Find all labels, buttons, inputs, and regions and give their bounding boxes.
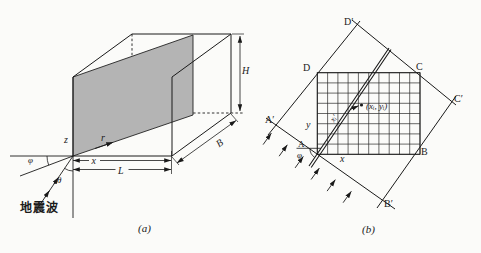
wavefront-arrow-5 xyxy=(327,180,335,191)
corner-d-prime-label: D′ xyxy=(344,16,353,27)
corner-d-label: D xyxy=(303,62,310,73)
theta-arc xyxy=(65,168,73,171)
grid-point-dot xyxy=(360,103,363,106)
panel-b: D′ D C C′ A′ A B B′ y x (xᵢ, yᵢ) xᵢ′ φ (… xyxy=(263,16,463,236)
corner-a-label: A xyxy=(298,139,305,149)
wavefront-arrow-2 xyxy=(279,145,287,156)
figure-container: z r x L B H φ θ 地震波 (a) xyxy=(0,0,481,253)
phi-label: φ xyxy=(28,155,33,165)
phi-arc xyxy=(47,156,49,165)
y-axis-label-b: y xyxy=(305,119,311,130)
dim-B-extensions xyxy=(172,114,238,165)
corner-b-label: B xyxy=(421,146,428,157)
corner-b-prime-label: B′ xyxy=(384,198,393,209)
dim-B-line xyxy=(177,121,236,164)
grid-point-label: (xᵢ, yᵢ) xyxy=(366,101,387,111)
seismic-wave-figure: z r x L B H φ θ 地震波 (a) xyxy=(0,0,481,253)
wavefront-arrow-4 xyxy=(311,168,319,179)
wavefront-arrow-1 xyxy=(263,133,271,144)
mesh-grid xyxy=(317,73,420,155)
z-axis-label: z xyxy=(63,134,68,145)
seismic-ray-arrow-2 xyxy=(45,191,50,198)
x-axis-label: x xyxy=(91,155,97,166)
panel-b-caption: (b) xyxy=(362,223,375,236)
theta-label: θ xyxy=(57,175,62,185)
corner-c-prime-label: C′ xyxy=(454,93,463,104)
x-axis-label-b: x xyxy=(339,153,345,164)
width-label: B xyxy=(214,137,225,149)
seismic-wave-label: 地震波 xyxy=(20,200,59,215)
length-label: L xyxy=(117,165,124,176)
wavefront-plane xyxy=(73,35,193,156)
panel-a: z r x L B H φ θ 地震波 (a) xyxy=(10,34,250,235)
phi-label-b: φ xyxy=(297,150,302,160)
corner-a-prime-label: A′ xyxy=(265,114,274,125)
height-label: H xyxy=(241,65,250,76)
wavefront-arrow-6 xyxy=(343,191,351,202)
panel-a-caption: (a) xyxy=(138,222,151,235)
r-axis-label: r xyxy=(101,132,105,143)
corner-c-label: C xyxy=(416,61,423,72)
outer-boundary-lines xyxy=(266,20,456,209)
